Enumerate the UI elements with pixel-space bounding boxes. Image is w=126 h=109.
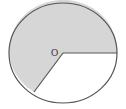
center-label: O: [51, 47, 58, 58]
circle-sector-diagram: O: [0, 0, 126, 109]
